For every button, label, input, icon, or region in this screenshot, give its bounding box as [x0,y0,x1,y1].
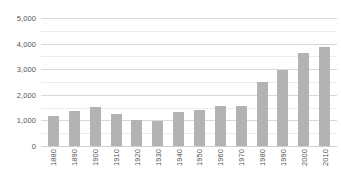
x-axis-tick-label: 1960 [216,149,225,166]
bar-slot [106,18,127,146]
bar [257,82,268,146]
bar-slot [231,18,252,146]
x-axis-tick-slot: 1970 [231,149,252,193]
x-axis-tick-slot: 1910 [106,149,127,193]
bar-slot [168,18,189,146]
bar [173,112,184,146]
x-axis-tick-slot: 1890 [64,149,85,193]
y-axis-tick-label: 0 [32,142,36,151]
x-axis-tick-slot: 2010 [314,149,335,193]
y-axis-tick-label: 3,000 [17,65,36,74]
bar-series [41,18,337,146]
bar-slot [210,18,231,146]
bar-slot [126,18,147,146]
x-axis-tick-slot: 1950 [189,149,210,193]
y-axis-tick-label: 5,000 [17,14,36,23]
x-axis-tick-label: 1980 [258,149,267,166]
x-axis-tick-slot: 1940 [168,149,189,193]
bar-slot [272,18,293,146]
bar-slot [85,18,106,146]
bar [69,111,80,146]
bar [319,47,330,146]
x-axis-tick-label: 1900 [91,149,100,166]
x-axis-tick-slot: 1930 [147,149,168,193]
bar-slot [189,18,210,146]
bar-slot [252,18,273,146]
x-axis-tick-slot: 1880 [43,149,64,193]
axis-baseline [41,146,337,147]
bar [277,70,288,146]
bar [215,106,226,146]
x-axis-tick-slot: 1990 [272,149,293,193]
bar [131,120,142,146]
x-axis-tick-label: 1930 [153,149,162,166]
bar-chart: 5,0004,0003,0002,0001,0000 1880189019001… [0,0,341,196]
x-axis-tick-slot: 1920 [126,149,147,193]
x-axis-tick-label: 1920 [132,149,141,166]
bar [90,107,101,146]
bar-slot [147,18,168,146]
x-axis-tick-label: 1890 [70,149,79,166]
x-axis-tick-label: 1940 [174,149,183,166]
y-axis-tick-label: 2,000 [17,90,36,99]
bar [48,116,59,146]
y-axis-tick-label: 1,000 [17,116,36,125]
x-axis-tick-label: 2010 [320,149,329,166]
x-axis-tick-label: 2000 [299,149,308,166]
x-axis-tick-label: 1990 [278,149,287,166]
x-axis-tick-label: 1880 [49,149,58,166]
x-axis-tick-slot: 1980 [252,149,273,193]
x-axis-tick-label: 1970 [237,149,246,166]
bar [111,114,122,146]
bar-slot [293,18,314,146]
bar [152,121,163,146]
x-axis-tick-slot: 1900 [85,149,106,193]
bar-slot [43,18,64,146]
x-axis-tick-label: 1950 [195,149,204,166]
x-axis-tick-label: 1910 [112,149,121,166]
bar-slot [64,18,85,146]
x-axis-tick-slot: 2000 [293,149,314,193]
x-axis: 1880189019001910192019301940195019601970… [41,149,337,193]
x-axis-tick-slot: 1960 [210,149,231,193]
bar [298,53,309,146]
y-axis-tick-label: 4,000 [17,39,36,48]
bar-slot [314,18,335,146]
plot-area [41,18,337,146]
y-axis: 5,0004,0003,0002,0001,0000 [0,0,38,196]
bar [236,106,247,146]
bar [194,110,205,146]
